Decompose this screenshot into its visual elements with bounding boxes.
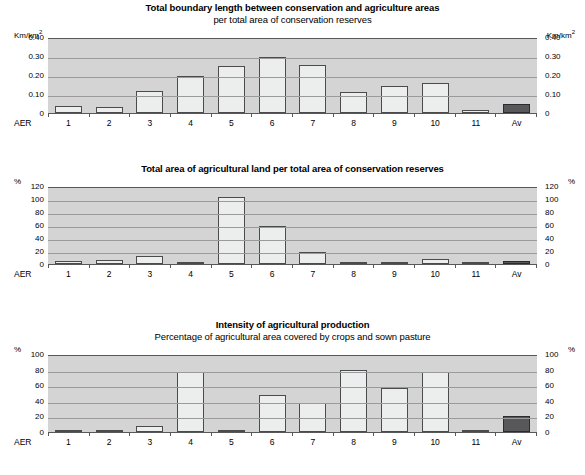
bar [462, 430, 489, 432]
bar [136, 426, 163, 432]
x-tickmark [89, 433, 130, 436]
chart-2-plot-wrap: % % 120100806040200 120100806040200 AER … [0, 177, 585, 292]
chart-3-x-axis: 1234567891011Av [48, 437, 537, 447]
x-tickmark [129, 433, 170, 436]
y-tick-label: 80 [12, 209, 44, 217]
bar [96, 430, 123, 432]
chart-1-y-axis-left: 0.400.300.200.100 [12, 38, 44, 114]
chart-2-title-block: Total area of agricultural land per tota… [0, 163, 585, 175]
bar [136, 256, 163, 264]
x-tickmark [414, 114, 455, 117]
y-tick-label: 100 [545, 351, 577, 359]
x-tickmark [495, 265, 537, 268]
x-tick-label: 4 [170, 269, 211, 279]
bar [96, 107, 123, 113]
y-tick-label: 60 [12, 382, 44, 390]
x-tick-label: 11 [456, 118, 497, 128]
gridline [48, 403, 537, 404]
bar [422, 83, 449, 113]
bar [259, 395, 286, 432]
x-tickmark [414, 265, 455, 268]
bar [381, 262, 408, 264]
x-tick-label: Av [496, 269, 537, 279]
chart-3-subtitle: Percentage of agricultural area covered … [0, 331, 585, 343]
bar [462, 262, 489, 264]
chart-1-plot-area [48, 38, 537, 114]
y-tick-label: 60 [12, 222, 44, 230]
y-tick-label: 0.40 [545, 34, 577, 42]
chart-2-title: Total area of agricultural land per tota… [0, 163, 585, 175]
x-tick-label: 10 [415, 118, 456, 128]
chart-2-plot-area [48, 187, 537, 265]
x-tickmark [48, 265, 89, 268]
y-tick-label: 120 [12, 183, 44, 191]
bar [381, 86, 408, 113]
gridline [48, 214, 537, 215]
bar [55, 261, 82, 264]
gridline [48, 201, 537, 202]
y-tick-label: 40 [12, 398, 44, 406]
chart-1-bars [48, 39, 537, 113]
bar-slot [496, 39, 537, 113]
x-tick-label: 6 [252, 118, 293, 128]
bar-slot [211, 39, 252, 113]
chart-2-aer-label: AER [14, 269, 31, 279]
chart-1-plot-wrap: Km/km2 Km/km2 0.400.300.200.100 0.400.30… [0, 28, 585, 143]
bar [340, 92, 367, 113]
bar-slot [415, 356, 456, 432]
bar [55, 106, 82, 113]
x-tickmark [333, 114, 374, 117]
chart-1-tickmarks [48, 114, 537, 117]
bar-slot [130, 356, 171, 432]
y-tick-label: 0.10 [545, 91, 577, 99]
bar-slot [374, 356, 415, 432]
x-tick-label: 7 [293, 437, 334, 447]
x-tick-label: Av [496, 118, 537, 128]
x-tick-label: 7 [293, 269, 334, 279]
bar-slot [211, 356, 252, 432]
y-tick-label: 0.20 [545, 72, 577, 80]
chart-3-aer-label: AER [14, 437, 31, 447]
x-tick-label: 10 [415, 437, 456, 447]
bar-slot [456, 356, 497, 432]
x-tick-label: 3 [130, 269, 171, 279]
x-tick-label: 2 [89, 269, 130, 279]
gridline [48, 96, 537, 97]
y-tick-label: 20 [545, 248, 577, 256]
bar [340, 370, 367, 432]
y-tick-label: 0.40 [12, 34, 44, 42]
y-tick-label: 60 [545, 222, 577, 230]
x-tick-label: 1 [48, 269, 89, 279]
x-tick-label: 7 [293, 118, 334, 128]
chart-panel-3: Intensity of agricultural production Per… [0, 319, 585, 460]
x-tickmark [89, 265, 130, 268]
y-tick-label: 80 [12, 367, 44, 375]
bar [55, 430, 82, 432]
chart-3-tickmarks [48, 433, 537, 436]
x-tick-label: 10 [415, 269, 456, 279]
x-tickmark [48, 433, 89, 436]
y-tick-label: 20 [545, 413, 577, 421]
chart-2-tickmarks [48, 265, 537, 268]
x-tickmark [373, 265, 414, 268]
x-tick-label: 4 [170, 437, 211, 447]
bar [381, 388, 408, 432]
y-tick-label: 0 [545, 261, 577, 269]
bar-slot [170, 356, 211, 432]
x-tick-label: 1 [48, 118, 89, 128]
bar-slot [496, 356, 537, 432]
bar-slot [333, 356, 374, 432]
x-tick-label: 9 [374, 269, 415, 279]
bar-slot [252, 356, 293, 432]
bar-slot [415, 39, 456, 113]
bar [340, 262, 367, 264]
y-tick-label: 0 [12, 429, 44, 437]
x-tickmark [211, 265, 252, 268]
x-tickmark [211, 114, 252, 117]
chart-1-title: Total boundary length between conservati… [0, 2, 585, 14]
chart-3-title: Intensity of agricultural production [0, 319, 585, 331]
x-tick-label: 11 [456, 437, 497, 447]
gridline [48, 253, 537, 254]
y-tick-label: 20 [12, 248, 44, 256]
x-tick-label: 8 [333, 269, 374, 279]
